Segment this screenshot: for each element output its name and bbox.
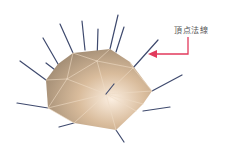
vertex-normal-diagram: 頂点法線 — [0, 0, 226, 152]
callout-arrow-icon — [148, 37, 188, 58]
polyhedron-figure — [0, 0, 226, 152]
vertex-normal-label: 頂点法線 — [174, 24, 208, 35]
